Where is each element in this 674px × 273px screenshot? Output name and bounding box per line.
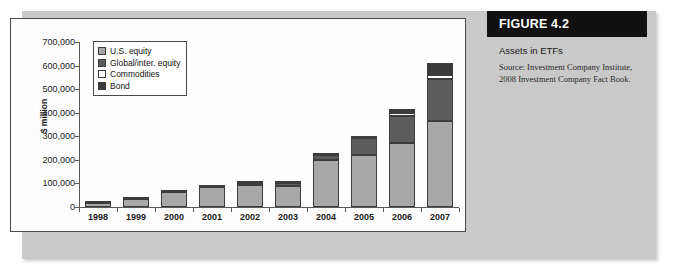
- bar-segment-commodities[interactable]: [389, 113, 416, 115]
- figure-source-note: Source: Investment Company Institute, 20…: [499, 62, 639, 85]
- y-axis-tick-label: 200,000: [42, 155, 75, 165]
- bar-segment-global-equity[interactable]: [161, 190, 188, 192]
- legend-swatch-icon: [98, 47, 106, 55]
- legend-item[interactable]: U.S. equity: [98, 46, 180, 57]
- bar-segment-us-equity[interactable]: [237, 185, 264, 207]
- bar-segment-global-equity[interactable]: [427, 79, 454, 121]
- x-axis-tick-mark: [79, 208, 80, 212]
- bar-group[interactable]: [275, 42, 302, 207]
- y-axis-tick-mark: [75, 42, 80, 43]
- bar-group[interactable]: [237, 42, 264, 207]
- x-axis-tick-mark: [231, 208, 232, 212]
- y-axis-tick-label: 400,000: [42, 108, 75, 118]
- x-axis-tick-mark: [345, 208, 346, 212]
- x-axis-tick-label: 2007: [421, 212, 459, 222]
- bar-segment-us-equity[interactable]: [123, 199, 150, 207]
- legend-label: Global/inter. equity: [110, 58, 180, 68]
- x-axis-tick-label: 1998: [79, 212, 117, 222]
- bar-segment-us-equity[interactable]: [85, 203, 112, 207]
- bar-segment-us-equity[interactable]: [313, 160, 340, 207]
- legend-swatch-icon: [98, 59, 106, 67]
- bar-segment-global-equity[interactable]: [275, 183, 302, 185]
- bar-segment-global-equity[interactable]: [123, 197, 150, 199]
- x-axis-tick-mark: [421, 208, 422, 212]
- x-axis-tick-mark: [307, 208, 308, 212]
- bar-segment-global-equity[interactable]: [389, 116, 416, 144]
- legend-label: Bond: [110, 81, 130, 91]
- x-axis-tick-label: 2004: [307, 212, 345, 222]
- legend-item[interactable]: Commodities: [98, 69, 180, 80]
- x-axis-tick-mark: [155, 208, 156, 212]
- x-axis-tick-mark: [193, 208, 194, 212]
- y-axis-tick-mark: [75, 136, 80, 137]
- bar-segment-us-equity[interactable]: [427, 121, 454, 207]
- chart-legend: U.S. equityGlobal/inter. equityCommoditi…: [93, 41, 187, 96]
- x-axis-tick-label: 2002: [231, 212, 269, 222]
- plot-area: $ million 0100,000200,000300,000400,0005…: [11, 19, 465, 231]
- legend-item[interactable]: Bond: [98, 80, 180, 91]
- y-axis-tick-mark: [75, 183, 80, 184]
- x-axis-tick-mark: [117, 208, 118, 212]
- x-axis-tick-label: 2000: [155, 212, 193, 222]
- bar-segment-us-equity[interactable]: [351, 155, 378, 207]
- figure-root: $ million 0100,000200,000300,000400,0005…: [0, 0, 674, 273]
- figure-number-label: FIGURE 4.2: [499, 17, 569, 31]
- bar-segment-us-equity[interactable]: [275, 186, 302, 207]
- y-axis-tick-label: 500,000: [42, 84, 75, 94]
- legend-swatch-icon: [98, 70, 106, 78]
- bar-segment-global-equity[interactable]: [199, 185, 226, 187]
- bar-segment-global-equity[interactable]: [85, 201, 112, 203]
- y-axis-tick-label: 700,000: [42, 37, 75, 47]
- figure-subtitle: Assets in ETFs: [499, 45, 649, 56]
- bar-segment-commodities[interactable]: [427, 75, 454, 79]
- x-axis-tick-label: 2005: [345, 212, 383, 222]
- bar-segment-bond[interactable]: [389, 109, 416, 113]
- bar-segment-us-equity[interactable]: [199, 187, 226, 207]
- x-axis-tick-label: 2001: [193, 212, 231, 222]
- bar-segment-global-equity[interactable]: [313, 155, 340, 160]
- x-axis-tick-label: 1999: [117, 212, 155, 222]
- y-axis-tick-labels: 0100,000200,000300,000400,000500,000600,…: [23, 19, 75, 231]
- bar-segment-global-equity[interactable]: [351, 138, 378, 155]
- legend-label: Commodities: [110, 69, 160, 79]
- bar-group[interactable]: [199, 42, 226, 207]
- bar-segment-bond[interactable]: [313, 153, 340, 155]
- y-axis-tick-label: 600,000: [42, 61, 75, 71]
- y-axis-tick-label: 300,000: [42, 131, 75, 141]
- x-axis-tick-label: 2006: [383, 212, 421, 222]
- x-axis-tick-labels: 1998199920002001200220032004200520062007: [79, 212, 459, 228]
- bar-segment-us-equity[interactable]: [389, 143, 416, 207]
- bar-group[interactable]: [313, 42, 340, 207]
- x-axis-tick-label: 2003: [269, 212, 307, 222]
- legend-label: U.S. equity: [110, 46, 152, 56]
- y-axis-tick-mark: [75, 160, 80, 161]
- bar-segment-bond[interactable]: [351, 136, 378, 138]
- y-axis-tick-mark: [75, 89, 80, 90]
- bar-segment-bond[interactable]: [427, 63, 454, 74]
- bar-segment-bond[interactable]: [275, 181, 302, 183]
- x-axis-tick-mark: [383, 208, 384, 212]
- bar-group[interactable]: [351, 42, 378, 207]
- y-axis-tick-label: 100,000: [42, 178, 75, 188]
- x-axis-tick-mark: [269, 208, 270, 212]
- bar-group[interactable]: [427, 42, 454, 207]
- y-axis-tick-mark: [75, 113, 80, 114]
- legend-swatch-icon: [98, 82, 106, 90]
- figure-header-bar: FIGURE 4.2: [487, 11, 647, 37]
- x-axis-tick-mark: [459, 208, 460, 212]
- bar-segment-bond[interactable]: [237, 181, 264, 183]
- legend-item[interactable]: Global/inter. equity: [98, 57, 180, 68]
- chart-plate: $ million 0100,000200,000300,000400,0005…: [10, 18, 466, 232]
- bar-group[interactable]: [389, 42, 416, 207]
- y-axis-tick-mark: [75, 66, 80, 67]
- bar-segment-us-equity[interactable]: [161, 192, 188, 207]
